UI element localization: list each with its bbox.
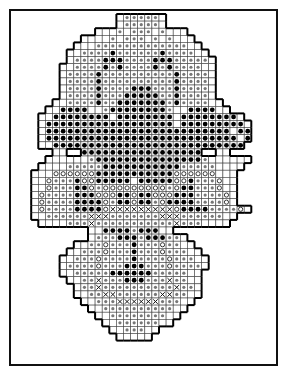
stitch-pattern-grid (0, 0, 284, 374)
